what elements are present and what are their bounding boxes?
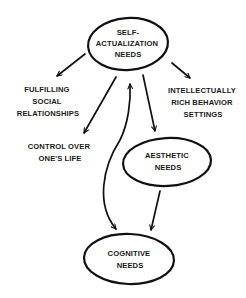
node-control-over-ones-life: CONTROL OVER ONE'S LIFE — [28, 142, 92, 163]
label-line: RELATIONSHIPS — [17, 109, 79, 118]
label-social: FULFILLING SOCIAL RELATIONSHIPS — [17, 85, 79, 118]
arrow-self-to-aesthetic — [143, 75, 155, 131]
label-line: RICH BEHAVIOR — [171, 98, 233, 107]
arrow-self-to-control — [84, 77, 116, 133]
label-line: ONE'S LIFE — [39, 154, 82, 163]
ellipse-cognitive — [83, 232, 175, 285]
label-line: CONTROL OVER — [28, 142, 91, 151]
label-line: INTELLECTUALLY — [168, 86, 236, 95]
label-line: COGNITIVE — [108, 249, 151, 258]
label-line: ACTUALIZATION — [96, 39, 158, 48]
arrow-aesthetic-to-cognitive — [151, 191, 160, 230]
label-line: SELF- — [117, 28, 140, 37]
node-intellectually-rich-settings: INTELLECTUALLY RICH BEHAVIOR SETTINGS — [168, 86, 238, 119]
label-line: NEEDS — [115, 50, 142, 59]
needs-diagram: SELF- ACTUALIZATION NEEDS FULFILLING SOC… — [0, 0, 246, 298]
label-line: NEEDS — [117, 261, 144, 270]
node-cognitive-needs: COGNITIVE NEEDS — [83, 232, 175, 285]
label-line: FULFILLING — [24, 85, 69, 94]
ellipse-aesthetic — [122, 136, 212, 189]
arrow-self-to-social — [57, 54, 85, 76]
node-aesthetic-needs: AESTHETIC NEEDS — [122, 136, 212, 189]
label-line: SOCIAL — [32, 97, 62, 106]
node-self-actualization-needs: SELF- ACTUALIZATION NEEDS — [86, 15, 169, 72]
arrow-self-to-intellectual — [172, 63, 190, 78]
label-intellectual: INTELLECTUALLY RICH BEHAVIOR SETTINGS — [168, 86, 238, 119]
label-control: CONTROL OVER ONE'S LIFE — [28, 142, 92, 163]
node-fulfilling-social-relationships: FULFILLING SOCIAL RELATIONSHIPS — [17, 85, 79, 118]
label-line: AESTHETIC — [145, 151, 189, 160]
label-line: NEEDS — [155, 163, 182, 172]
label-line: SETTINGS — [184, 110, 223, 119]
